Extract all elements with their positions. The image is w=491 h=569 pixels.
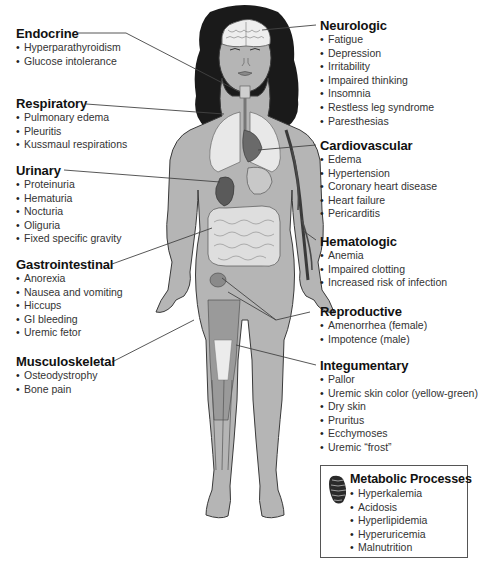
symptom-item: Anemia [320, 249, 447, 263]
symptom-item: Coronary heart disease [320, 180, 437, 194]
symptom-item: Acidosis [350, 501, 472, 515]
system-title: Respiratory [16, 96, 127, 111]
symptom-item: Pericarditis [320, 207, 437, 221]
symptom-item: Insomnia [320, 87, 434, 101]
system-title: Musculoskeletal [16, 354, 115, 369]
symptom-item: Oliguria [16, 219, 121, 233]
symptom-item: Irritability [320, 60, 434, 74]
symptom-item: Restless leg syndrome [320, 101, 434, 115]
metabolic-processes-box: Metabolic Processes Hyperkalemia Acidosi… [320, 465, 468, 558]
symptom-item: Malnutrition [350, 541, 472, 555]
leader-musculoskeletal [112, 320, 194, 362]
system-urinary: Urinary Proteinuria Hematuria Nocturia O… [16, 163, 121, 246]
symptom-item: Paresthesias [320, 115, 434, 129]
system-neurologic: Neurologic Fatigue Depression Irritabili… [320, 18, 434, 128]
system-title: Urinary [16, 163, 121, 178]
symptom-item: Edema [320, 153, 437, 167]
system-title: Neurologic [320, 18, 434, 33]
symptom-item: Uremic skin color (yellow-green) [320, 387, 478, 401]
thyroid [240, 86, 250, 98]
symptom-item: Impotence (male) [320, 333, 427, 347]
system-reproductive: Reproductive Amenorrhea (female) Impoten… [320, 304, 427, 346]
system-title: Metabolic Processes [350, 472, 472, 487]
system-title: Reproductive [320, 304, 427, 319]
symptom-item: Fatigue [320, 33, 434, 47]
symptom-item: Anorexia [16, 272, 123, 286]
symptom-item: Pruritus [320, 414, 478, 428]
symptom-item: Increased risk of infection [320, 276, 447, 290]
system-title: Cardiovascular [320, 138, 437, 153]
symptom-item: Dry skin [320, 400, 478, 414]
symptom-item: GI bleeding [16, 313, 123, 327]
symptom-item: Impaired clotting [320, 263, 447, 277]
symptom-item: Depression [320, 47, 434, 61]
symptom-item: Uremic “frost” [320, 441, 478, 455]
system-hematologic: Hematologic Anemia Impaired clotting Inc… [320, 234, 447, 290]
symptom-item: Kussmaul respirations [16, 138, 127, 152]
symptom-item: Amenorrhea (female) [320, 319, 427, 333]
symptom-item: Pulmonary edema [16, 111, 127, 125]
symptom-item: Hyperuricemia [350, 528, 472, 542]
system-integumentary: Integumentary Pallor Uremic skin color (… [320, 358, 478, 455]
symptom-item: Uremic fetor [16, 326, 123, 340]
mitochondrion-icon [327, 474, 349, 506]
symptom-item: Hematuria [16, 192, 121, 206]
system-title: Hematologic [320, 234, 447, 249]
system-respiratory: Respiratory Pulmonary edema Pleuritis Ku… [16, 96, 127, 152]
symptom-item: Hiccups [16, 299, 123, 313]
system-title: Integumentary [320, 358, 478, 373]
system-title: Gastrointestinal [16, 257, 123, 272]
symptom-item: Fixed specific gravity [16, 232, 121, 246]
symptom-item: Nocturia [16, 205, 121, 219]
symptom-item: Nausea and vomiting [16, 286, 123, 300]
symptom-item: Hypertension [320, 167, 437, 181]
bladder [210, 273, 226, 287]
symptom-item: Hyperparathyroidism [16, 41, 121, 55]
symptom-item: Pallor [320, 373, 478, 387]
symptom-item: Hyperkalemia [350, 487, 472, 501]
symptom-item: Hyperlipidemia [350, 514, 472, 528]
system-title: Endocrine [16, 26, 121, 41]
symptom-item: Proteinuria [16, 178, 121, 192]
system-cardiovascular: Cardiovascular Edema Hypertension Corona… [320, 138, 437, 221]
system-metabolic: Metabolic Processes Hyperkalemia Acidosi… [350, 472, 472, 555]
symptom-item: Bone pain [16, 383, 115, 397]
symptom-item: Heart failure [320, 194, 437, 208]
symptom-item: Impaired thinking [320, 74, 434, 88]
system-gastrointestinal: Gastrointestinal Anorexia Nausea and vom… [16, 257, 123, 340]
symptom-item: Osteodystrophy [16, 369, 115, 383]
system-musculoskeletal: Musculoskeletal Osteodystrophy Bone pain [16, 354, 115, 396]
symptom-item: Ecchymoses [320, 427, 478, 441]
symptom-item: Glucose intolerance [16, 55, 121, 69]
symptom-item: Pleuritis [16, 125, 127, 139]
system-endocrine: Endocrine Hyperparathyroidism Glucose in… [16, 26, 121, 68]
